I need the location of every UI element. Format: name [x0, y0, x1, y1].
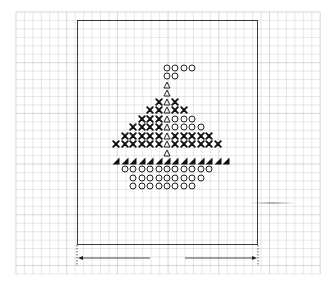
- width-dimension-arrow: [0, 0, 330, 281]
